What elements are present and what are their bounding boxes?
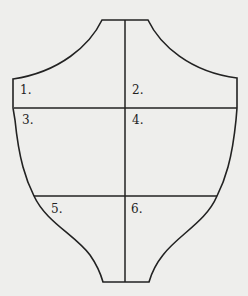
region-label-6: 6. — [131, 203, 142, 215]
region-label-1: 1. — [20, 84, 31, 96]
region-label-2: 2. — [132, 84, 143, 96]
region-label-4: 4. — [132, 114, 143, 126]
region-label-5: 5. — [51, 203, 62, 215]
region-label-3: 3. — [22, 114, 33, 126]
shield-diagram: 1. 2. 3. 4. 5. 6. — [0, 0, 248, 296]
shield-outline — [0, 0, 248, 296]
